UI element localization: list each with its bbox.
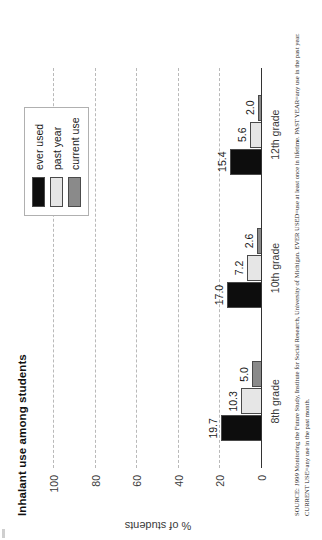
bar-value-label: 17.0 — [213, 285, 225, 305]
corner-artifact — [2, 529, 5, 538]
bar[interactable]: 15.4 — [230, 149, 262, 175]
page-title: Inhalant use among students — [16, 354, 28, 516]
bar-value-label: 2.6 — [243, 234, 255, 249]
y-axis-tick-label: 0 — [256, 475, 268, 481]
y-axis-label: % of students — [125, 520, 192, 532]
bar-value-label: 15.4 — [216, 151, 228, 171]
y-axis-tick-label: 60 — [131, 475, 143, 487]
rotated-figure-wrapper: Inhalant use among students % of student… — [0, 0, 322, 540]
bar-value-label: 10.3 — [227, 391, 239, 411]
legend-item[interactable]: past year — [50, 117, 63, 207]
y-axis-tick-label: 100 — [48, 475, 60, 493]
legend-swatch-icon — [68, 177, 81, 207]
bar-value-label: 5.0 — [238, 367, 250, 382]
bar-group: 19.710.35.08th grade — [54, 335, 262, 468]
x-axis-line — [261, 68, 262, 468]
legend-item[interactable]: current use — [68, 117, 81, 207]
bar[interactable]: 10.3 — [241, 388, 262, 414]
source-year: 1999 — [293, 473, 300, 486]
x-axis-category-label: 8th grade — [269, 379, 281, 423]
y-axis-tick-label: 40 — [173, 475, 185, 487]
legend-item[interactable]: ever used — [32, 117, 45, 207]
y-axis-tick-label: 20 — [214, 475, 226, 487]
bar-value-label: 7.2 — [233, 261, 245, 276]
bar[interactable]: 19.7 — [221, 415, 262, 441]
x-axis-category-label: 10th grade — [269, 243, 281, 293]
legend-swatch-icon — [50, 177, 63, 207]
source-label: SOURCE: — [293, 488, 300, 516]
bar-value-label: 2.0 — [244, 100, 256, 115]
bar-value-label: 5.6 — [236, 127, 248, 142]
x-axis-category-label: 12th grade — [269, 110, 281, 160]
legend-label: past year — [51, 127, 63, 170]
legend-label: ever used — [33, 124, 45, 170]
bar-value-label: 19.7 — [207, 418, 219, 438]
legend-label: current use — [69, 117, 81, 170]
bar-group: 17.07.22.610th grade — [54, 201, 262, 334]
chart-legend[interactable]: ever usedpast yearcurrent use — [24, 107, 89, 216]
bar[interactable]: 17.0 — [227, 282, 262, 308]
y-axis-tick-label: 80 — [90, 475, 102, 487]
source-text: Monitoring the Future Study, Institute f… — [293, 33, 310, 516]
bar[interactable]: 7.2 — [247, 255, 262, 281]
chart-figure: Inhalant use among students % of student… — [0, 0, 322, 540]
source-note: SOURCE: 1999 Monitoring the Future Study… — [292, 32, 311, 516]
legend-swatch-icon — [32, 177, 45, 207]
